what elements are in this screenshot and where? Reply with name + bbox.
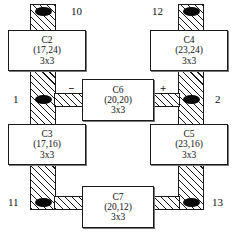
node-marker-top-left[interactable] — [35, 7, 52, 16]
cell-C6-size: 3x3 — [111, 105, 125, 115]
cell-C4-size: 3x3 — [182, 56, 196, 66]
node-marker-bottom-right[interactable] — [183, 198, 200, 207]
port-label-2: 2 — [215, 93, 221, 105]
port-label-12: 12 — [152, 5, 163, 17]
node-marker-middle-right[interactable] — [183, 95, 200, 104]
cell-C5[interactable]: C5 (23,16) 3x3 — [150, 124, 228, 165]
minus-sign: − — [68, 83, 74, 94]
node-marker-bottom-left[interactable] — [35, 198, 52, 207]
cell-C5-size: 3x3 — [182, 150, 196, 160]
cell-C3-name: C3 — [41, 129, 52, 139]
cell-C7-size: 3x3 — [111, 212, 125, 222]
cell-C6[interactable]: C6 (20,20) 3x3 — [82, 79, 154, 121]
cell-C2-name: C2 — [41, 35, 52, 45]
cell-C4-name: C4 — [183, 35, 194, 45]
cell-C7[interactable]: C7 (20,12) 3x3 — [82, 186, 154, 228]
routing-pipe-bottom-right-stub — [150, 196, 180, 210]
cell-C3[interactable]: C3 (17,16) 3x3 — [8, 124, 86, 165]
cell-C5-coord: (23,16) — [175, 139, 203, 149]
routing-pipe-middle-left-stub — [54, 93, 84, 107]
port-label-10: 10 — [71, 5, 82, 17]
routing-pipe-bottom-left-stub — [54, 196, 84, 210]
port-label-11: 11 — [8, 196, 19, 208]
cell-C5-name: C5 — [183, 129, 194, 139]
routing-pipe-middle-right-stub — [150, 93, 180, 107]
node-marker-middle-left[interactable] — [35, 95, 52, 104]
cell-C6-name: C6 — [112, 85, 123, 95]
port-label-13: 13 — [212, 196, 223, 208]
cell-C3-coord: (17,16) — [33, 139, 61, 149]
cell-C7-name: C7 — [112, 192, 123, 202]
cell-C3-size: 3x3 — [40, 150, 54, 160]
node-marker-top-right[interactable] — [183, 7, 200, 16]
cell-C4[interactable]: C4 (23,24) 3x3 — [150, 30, 228, 71]
cell-C2-size: 3x3 — [40, 56, 54, 66]
port-label-1: 1 — [13, 93, 19, 105]
cell-C7-coord: (20,12) — [104, 202, 132, 212]
cell-C4-coord: (23,24) — [175, 45, 203, 55]
cell-C2[interactable]: C2 (17,24) 3x3 — [8, 30, 86, 71]
cell-C6-coord: (20,20) — [104, 95, 132, 105]
diagram-canvas: C2 (17,24) 3x3 C4 (23,24) 3x3 C6 (20,20)… — [0, 0, 236, 236]
plus-sign: + — [160, 83, 166, 94]
cell-C2-coord: (17,24) — [33, 45, 61, 55]
